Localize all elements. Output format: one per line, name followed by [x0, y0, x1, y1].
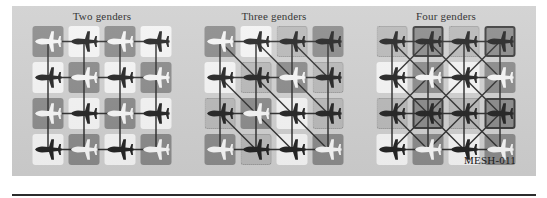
- figure-root: Two gendersThree gendersFour genders MES…: [0, 0, 547, 198]
- panel-three-genders: Three genders: [190, 6, 358, 176]
- figure-caption-label: MESH-011: [464, 154, 516, 166]
- mesh-overlay-four-genders: [377, 26, 516, 165]
- board-four-genders: [377, 26, 516, 165]
- board-three-genders: [205, 26, 344, 165]
- panel-four-genders: Four genders: [362, 6, 530, 176]
- panel-title-two-genders: Two genders: [18, 9, 186, 23]
- mesh-overlay-three-genders: [205, 26, 344, 165]
- panel-title-three-genders: Three genders: [190, 9, 358, 23]
- board-two-genders: [33, 26, 172, 165]
- panel-title-four-genders: Four genders: [362, 9, 530, 23]
- panel-two-genders: Two genders: [18, 6, 186, 176]
- mesh-overlay-two-genders: [33, 26, 172, 165]
- mesh-edge-diagonal: [220, 42, 328, 150]
- bottom-horizontal-rule: [12, 194, 536, 196]
- figure-plate: Two gendersThree gendersFour genders MES…: [12, 6, 536, 176]
